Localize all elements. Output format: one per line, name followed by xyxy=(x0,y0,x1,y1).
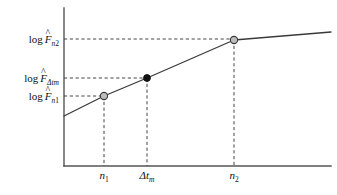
x-label-n2-symbol: n xyxy=(229,169,235,181)
y-label-n2-log: log xyxy=(29,33,43,45)
x-label-n2: n2 xyxy=(229,170,238,181)
x-label-n1-symbol: n xyxy=(99,169,105,181)
y-label-n2: log^Fn2 xyxy=(29,34,59,45)
y-label-n1: log^Fn1 xyxy=(29,91,59,102)
y-label-n1-log: log xyxy=(29,90,43,102)
hat-accent-icon: ^ xyxy=(41,66,46,76)
x-label-dtm: Δtm xyxy=(140,170,155,181)
y-label-n2-symbol: ^F xyxy=(45,34,52,45)
y-label-n2-sub: n xyxy=(52,38,56,47)
marker-dtm xyxy=(144,75,151,82)
figure-container: log^Fn2 log^FΔtm log^Fn1 n1 Δtm n2 xyxy=(0,0,337,195)
y-label-n2-subnum: 2 xyxy=(55,38,59,47)
hat-accent-icon: ^ xyxy=(45,27,50,37)
y-label-n1-symbol: ^F xyxy=(45,91,52,102)
marker-n2 xyxy=(230,36,237,43)
y-label-dtm-symbol: ^F xyxy=(40,73,47,84)
x-label-n2-sub: 2 xyxy=(235,175,239,184)
x-label-n1-sub: 1 xyxy=(105,175,109,184)
x-label-n1: n1 xyxy=(99,170,108,181)
y-label-dtm: log^FΔtm xyxy=(24,73,59,84)
hat-accent-icon: ^ xyxy=(45,84,50,94)
marker-n1 xyxy=(100,92,107,99)
x-label-dtm-symbol: Δt xyxy=(140,169,150,181)
x-label-dtm-sub: m xyxy=(149,175,154,184)
y-label-dtm-log: log xyxy=(24,72,38,84)
y-label-n1-subnum: 1 xyxy=(55,95,59,104)
y-label-dtm-subm: m xyxy=(54,77,59,86)
y-label-n1-sub: n xyxy=(52,95,56,104)
